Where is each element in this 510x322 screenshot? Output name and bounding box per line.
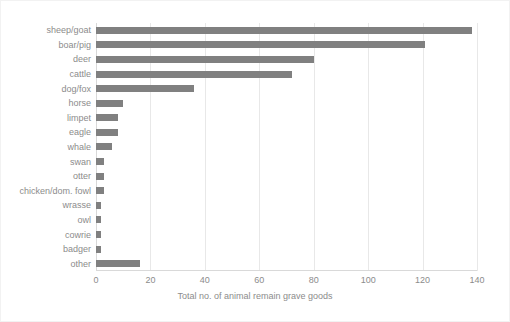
x-tick-label: 120 [415,275,430,285]
category-label: horse [68,98,91,108]
bar-row: badger [96,242,477,257]
bar-chart: sheep/goatboar/pigdeercattledog/foxhorse… [0,0,510,322]
bar [96,143,112,150]
bar-row: chicken/dom. fowl [96,183,477,198]
category-label: otter [73,171,91,181]
category-label: boar/pig [58,40,91,50]
bar [96,246,101,253]
bar-row: eagle [96,125,477,140]
bar [96,216,101,223]
bar-row: horse [96,96,477,111]
category-label: deer [73,54,91,64]
bar [96,114,118,121]
category-label: whale [67,142,91,152]
gridline [477,23,478,271]
bar [96,71,292,78]
bar [96,231,101,238]
category-label: chicken/dom. fowl [19,186,91,196]
bar-row: otter [96,169,477,184]
bar-row: owl [96,213,477,228]
x-tick-label: 60 [254,275,264,285]
category-label: dog/fox [61,84,91,94]
bar [96,129,118,136]
bar-row: cowrie [96,227,477,242]
bar [96,56,314,63]
bar-row: cattle [96,67,477,82]
x-axis-title: Total no. of animal remain grave goods [1,291,509,302]
x-tick-label: 20 [145,275,155,285]
x-tick-label: 80 [309,275,319,285]
bar-row: sheep/goat [96,23,477,38]
bar-row: whale [96,140,477,155]
x-tick-label: 140 [469,275,484,285]
bar-row: boar/pig [96,38,477,53]
bar [96,100,123,107]
bar-row: deer [96,52,477,67]
bar [96,158,104,165]
category-label: eagle [69,127,91,137]
bar [96,173,104,180]
category-label: cattle [69,69,91,79]
bar [96,27,472,34]
category-label: owl [77,215,91,225]
bar-row: swan [96,154,477,169]
category-label: other [70,259,91,269]
category-label: cowrie [65,230,91,240]
bar-row: other [96,256,477,271]
bar [96,202,101,209]
bar-row: limpet [96,111,477,126]
x-tick-label: 100 [361,275,376,285]
bar-row: wrasse [96,198,477,213]
bar-row: dog/fox [96,81,477,96]
category-label: wrasse [62,200,91,210]
bar [96,187,104,194]
x-tick-label: 40 [200,275,210,285]
bar [96,260,140,267]
bar [96,85,194,92]
bar [96,41,425,48]
category-label: limpet [67,113,91,123]
category-label: badger [63,244,91,254]
category-label: swan [70,157,91,167]
x-tick-label: 0 [93,275,98,285]
plot-area: sheep/goatboar/pigdeercattledog/foxhorse… [96,23,477,271]
category-label: sheep/goat [46,25,91,35]
